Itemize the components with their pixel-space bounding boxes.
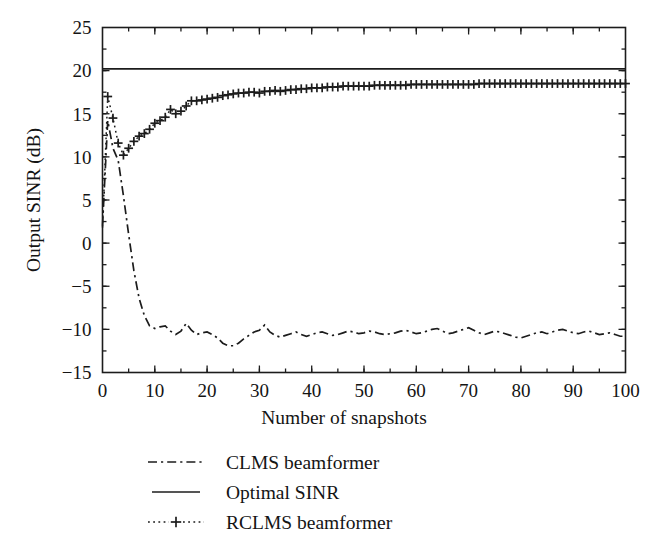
y-axis-title: Output SINR (dB): [23, 128, 45, 272]
y-tick-label: 20: [73, 60, 92, 81]
sinr-convergence-chart: −15−10−50510152025 010203040506070809010…: [0, 0, 649, 549]
figure-canvas: −15−10−50510152025 010203040506070809010…: [0, 0, 649, 549]
x-tick-label: 40: [302, 380, 321, 401]
y-tick-label: 15: [73, 104, 92, 125]
x-tick-label: 70: [459, 380, 478, 401]
x-tick-label: 0: [98, 380, 108, 401]
legend-label: CLMS beamformer: [226, 452, 380, 473]
legend-label: RCLMS beamformer: [226, 512, 393, 533]
x-tick-label: 80: [511, 380, 530, 401]
legend-label: Optimal SINR: [226, 482, 339, 503]
y-tick-label: 0: [82, 233, 92, 254]
x-tick-label: 20: [198, 380, 217, 401]
x-tick-label: 60: [407, 380, 426, 401]
x-tick-label: 100: [611, 380, 640, 401]
x-tick-label: 90: [564, 380, 583, 401]
y-tick-label: −5: [71, 276, 91, 297]
y-tick-label: 5: [82, 190, 92, 211]
x-axis-title: Number of snapshots: [261, 407, 427, 428]
x-tick-label: 10: [145, 380, 164, 401]
y-tick-label: 10: [73, 147, 92, 168]
y-tick-label: 25: [73, 17, 92, 38]
x-tick-label: 30: [250, 380, 269, 401]
y-tick-label: −15: [62, 362, 92, 383]
x-tick-label: 50: [355, 380, 374, 401]
y-tick-label: −10: [62, 319, 92, 340]
